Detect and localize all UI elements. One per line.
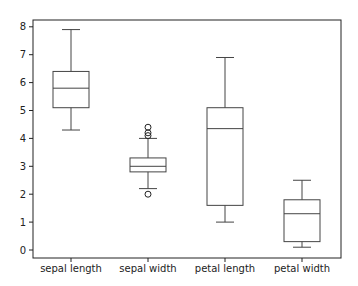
x-tick-label: petal width — [274, 263, 330, 274]
box-petal-width — [284, 180, 320, 247]
y-tick-label: 0 — [20, 245, 26, 256]
y-tick-label: 2 — [20, 189, 26, 200]
x-tick-label: petal length — [195, 263, 255, 274]
x-axis: sepal lengthsepal widthpetal lengthpetal… — [40, 258, 330, 274]
y-axis: 012345678 — [20, 21, 33, 255]
y-tick-label: 1 — [20, 217, 26, 228]
box-sepal-length — [53, 30, 89, 130]
boxplot-chart: 012345678 sepal lengthsepal widthpetal l… — [0, 0, 358, 286]
outlier-point — [145, 191, 151, 197]
box-petal-length — [207, 57, 243, 222]
plot-area — [53, 30, 320, 248]
axes-frame — [33, 20, 341, 258]
y-tick-label: 5 — [20, 105, 26, 116]
y-tick-label: 3 — [20, 161, 26, 172]
x-tick-label: sepal width — [119, 263, 176, 274]
x-tick-label: sepal length — [40, 263, 102, 274]
y-tick-label: 6 — [20, 77, 26, 88]
y-tick-label: 7 — [20, 49, 26, 60]
y-tick-label: 8 — [20, 21, 26, 32]
y-tick-label: 4 — [20, 133, 26, 144]
box-sepal-width — [130, 124, 166, 197]
